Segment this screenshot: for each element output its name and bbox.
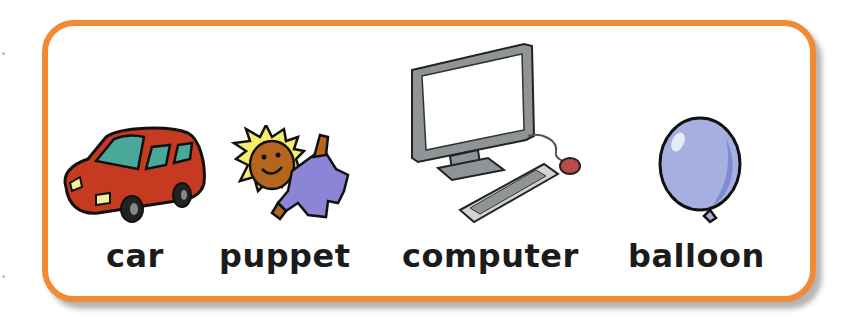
balloon-label: balloon [628, 237, 765, 275]
computer-label: computer [402, 237, 579, 275]
computer-icon [408, 40, 588, 230]
margin-mark [2, 275, 5, 278]
car-item [58, 125, 208, 225]
computer-item [408, 40, 588, 230]
puppet-icon [228, 125, 358, 230]
car-label: car [106, 237, 164, 275]
balloon-item [652, 108, 752, 234]
margin-mark [2, 52, 5, 55]
puppet-item [228, 125, 358, 230]
car-icon [58, 125, 208, 225]
puppet-label: puppet [219, 237, 351, 275]
balloon-icon [652, 108, 752, 234]
